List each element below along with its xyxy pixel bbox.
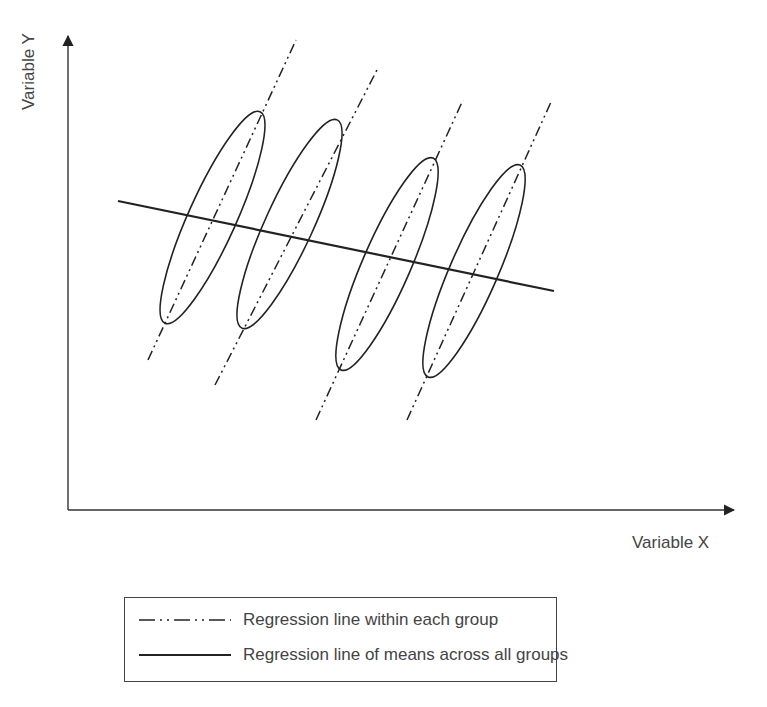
within-group-regression-lines [148, 40, 551, 420]
legend-item-within-group: Regression line within each group [139, 608, 498, 632]
legend-label-means: Regression line of means across all grou… [243, 645, 568, 665]
within-regression-line-group-4 [407, 102, 551, 420]
group-ellipse-2 [220, 110, 359, 338]
solid-line-icon [139, 650, 231, 660]
y-axis-label: Variable Y [19, 33, 39, 110]
dash-dot-dot-line-icon [139, 615, 231, 625]
legend-label-within-group: Regression line within each group [243, 610, 498, 630]
group-ellipses [143, 102, 542, 387]
x-axis-label: Variable X [632, 533, 709, 553]
legend-item-means: Regression line of means across all grou… [139, 643, 568, 667]
means-regression-line [118, 201, 554, 291]
legend: Regression line within each group Regres… [124, 597, 557, 682]
group-ellipse-1 [143, 102, 282, 333]
